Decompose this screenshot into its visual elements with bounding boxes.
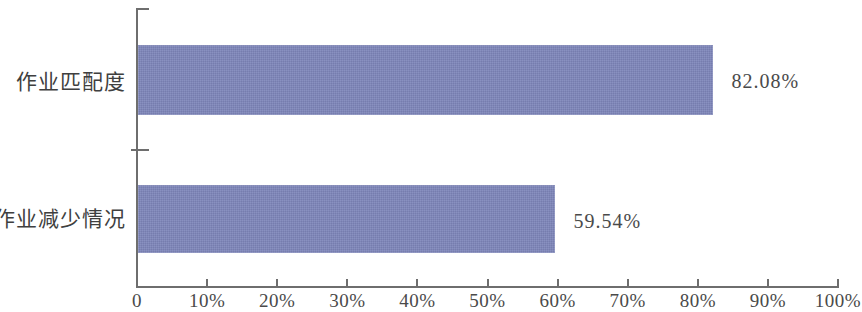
x-axis-tick-label-1: 10%: [189, 290, 225, 312]
bar-series-0-item-1[interactable]: [138, 185, 555, 253]
x-axis-tick-label-2: 20%: [259, 290, 295, 312]
category-label-0: 作业匹配度: [16, 70, 126, 94]
x-axis-tick-label-0: 0: [132, 290, 142, 312]
value-label-1: 59.54%: [573, 210, 641, 233]
x-axis-tick-label-9: 90%: [750, 290, 786, 312]
x-axis-tick-label-5: 50%: [469, 290, 505, 312]
category-label-1: 作业减少情况: [0, 207, 126, 231]
x-axis-tick-3: [346, 279, 348, 287]
bar-series-0-item-0[interactable]: [138, 45, 713, 115]
y-axis-tick-middle: [131, 149, 149, 151]
x-axis-tick-0: [136, 279, 138, 287]
bar-chart: 010%20%30%40%50%60%70%80%90%100% 作业匹配度 作…: [0, 0, 862, 312]
value-label-0: 82.08%: [731, 70, 799, 93]
x-axis-tick-label-4: 40%: [399, 290, 435, 312]
x-axis-tick-8: [697, 279, 699, 287]
x-axis-tick-label-7: 70%: [610, 290, 646, 312]
x-axis-tick-7: [627, 279, 629, 287]
x-axis-tick-10: [837, 279, 839, 287]
x-axis-tick-label-6: 60%: [539, 290, 575, 312]
x-axis-tick-1: [206, 279, 208, 287]
y-axis-tick-top: [136, 8, 149, 10]
x-axis-tick-5: [487, 279, 489, 287]
x-axis-tick-9: [767, 279, 769, 287]
x-axis-tick-4: [416, 279, 418, 287]
x-axis-tick-6: [557, 279, 559, 287]
x-axis-tick-label-8: 80%: [680, 290, 716, 312]
x-axis-tick-label-10: 100%: [815, 290, 861, 312]
x-axis-tick-2: [276, 279, 278, 287]
x-axis-tick-label-3: 30%: [329, 290, 365, 312]
